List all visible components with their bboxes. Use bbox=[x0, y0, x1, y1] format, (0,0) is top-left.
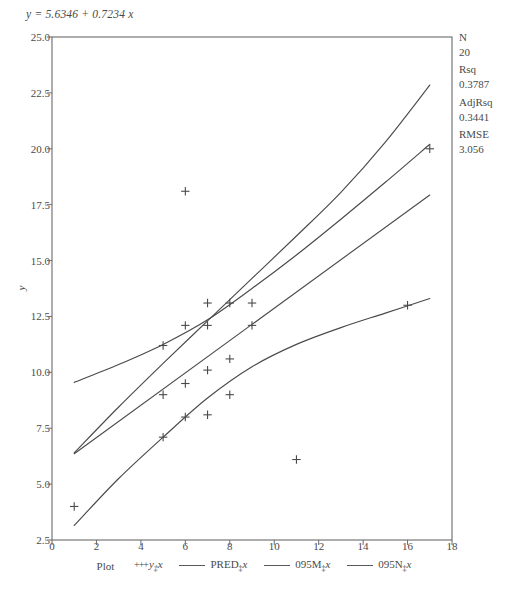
data-point-marker bbox=[226, 355, 234, 363]
data-point-marker bbox=[226, 390, 234, 398]
legend-label-points: y‡x bbox=[149, 558, 163, 570]
data-point-marker bbox=[203, 299, 211, 307]
data-point-marker bbox=[203, 366, 211, 374]
legend-label-upper: 095M‡x bbox=[295, 558, 330, 570]
line-swatch-icon bbox=[179, 565, 205, 566]
legend-entry-lower: 095N‡x bbox=[347, 558, 411, 573]
data-point-marker bbox=[70, 502, 78, 510]
data-point-marker bbox=[203, 411, 211, 419]
legend: Plot +++y‡x PRED‡x 095M‡x 095N‡x bbox=[0, 558, 508, 573]
data-point-marker bbox=[226, 299, 234, 307]
data-point-marker bbox=[181, 321, 189, 329]
plot-area bbox=[0, 0, 508, 597]
legend-entry-upper: 095M‡x bbox=[264, 558, 330, 573]
chart-canvas: y = 5.6346 + 0.7234 x N 20 Rsq 0.3787 Ad… bbox=[0, 0, 508, 597]
data-point-marker bbox=[426, 145, 434, 153]
legend-label-lower: 095N‡x bbox=[378, 558, 411, 570]
legend-label-pred: PRED‡x bbox=[210, 558, 247, 570]
legend-entry-pred: PRED‡x bbox=[179, 558, 247, 573]
data-point-marker bbox=[248, 299, 256, 307]
data-point-marker bbox=[292, 455, 300, 463]
line-swatch-icon bbox=[347, 565, 373, 566]
confidence-band-lower bbox=[74, 299, 430, 526]
plus-marker-icon: +++ bbox=[134, 559, 148, 570]
legend-entry-points: +++y‡x bbox=[134, 558, 163, 573]
legend-title: Plot bbox=[97, 560, 115, 572]
data-point-marker bbox=[181, 187, 189, 195]
mean-confidence-band-upper bbox=[74, 144, 430, 382]
line-swatch-icon bbox=[264, 565, 290, 566]
prediction-band-upper bbox=[74, 85, 430, 453]
data-point-marker bbox=[181, 379, 189, 387]
data-point-marker bbox=[403, 301, 411, 309]
data-point-marker bbox=[203, 321, 211, 329]
